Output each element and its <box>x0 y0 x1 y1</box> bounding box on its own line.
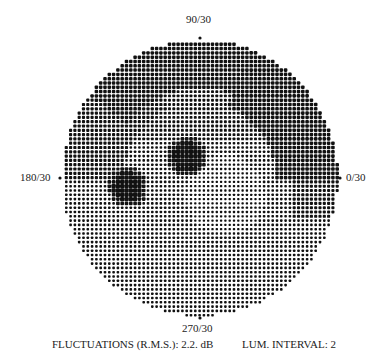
axis-label-bottom: 270/30 <box>182 322 213 334</box>
axis-label-right: 0/30 <box>346 171 366 183</box>
lum-interval-text: LUM. INTERVAL: 2 <box>242 338 336 350</box>
axis-label-top: 90/30 <box>186 13 211 25</box>
fluctuations-text: FLUCTUATIONS (R.M.S.): 2.2. dB <box>52 338 213 350</box>
visual-field-plot <box>0 0 382 359</box>
axis-label-left: 180/30 <box>20 171 51 183</box>
